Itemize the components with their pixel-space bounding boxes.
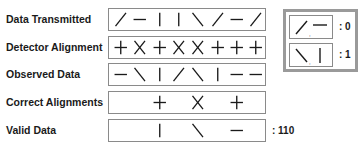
backslash-icon [188,9,208,30]
plus-icon [227,92,247,113]
row-valid-data [108,119,266,142]
row-detector-alignment [108,36,266,59]
bar-icon [169,9,189,30]
cross-icon [169,37,189,58]
legend-glyph-icon: , [290,44,332,66]
plus-icon [150,37,170,58]
row-observed-data [108,63,266,86]
legend-entry-1-value: : 1 [339,49,351,60]
bar-icon [150,120,170,141]
slash-icon [246,9,266,30]
dash-icon [246,64,266,85]
plus-icon [111,37,131,58]
label-valid-data: Valid Data [6,123,56,137]
plus-icon [246,37,266,58]
backslash-icon [130,64,150,85]
slash-icon [208,9,228,30]
bar-icon [150,9,170,30]
backslash-icon [188,120,208,141]
label-correct-alignments: Correct Alignments [6,95,103,109]
row-correct-alignments [108,91,266,114]
bar-icon [208,64,228,85]
label-detector-alignment: Detector Alignment [6,40,102,54]
plus-icon [208,37,228,58]
label-observed-data: Observed Data [6,67,80,81]
legend-entry-0-value: : 0 [339,21,351,32]
row-data-transmitted [108,8,266,31]
legend-glyph-icon: , [290,16,332,38]
cross-icon [188,92,208,113]
dash-icon [227,64,247,85]
dash-icon [130,9,150,30]
svg-text:,: , [309,31,311,37]
dash-icon [227,9,247,30]
label-data-transmitted: Data Transmitted [6,12,91,26]
slash-icon [111,9,131,30]
slash-icon [169,64,189,85]
dash-icon [227,120,247,141]
cross-icon [188,37,208,58]
legend-entry-0-box: , [289,15,333,39]
legend: , : 0 , : 1 [283,9,358,72]
dash-icon [111,64,131,85]
cross-icon [130,37,150,58]
plus-icon [227,37,247,58]
plus-icon [150,92,170,113]
svg-text:,: , [309,59,311,65]
bar-icon [150,64,170,85]
valid-data-count: : 110 [272,125,294,136]
legend-entry-1-box: , [289,43,333,67]
backslash-icon [188,64,208,85]
